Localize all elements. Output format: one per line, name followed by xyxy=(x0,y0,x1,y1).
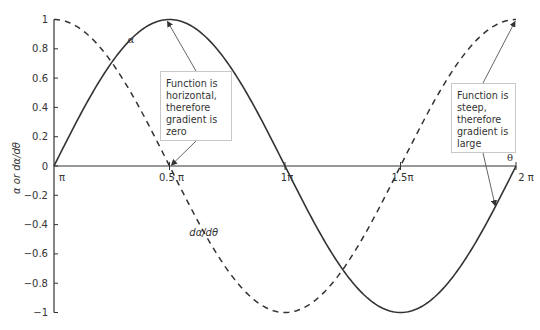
y-tick-label: 0.6 xyxy=(32,73,48,84)
y-tick-label: −1 xyxy=(33,307,48,318)
y-tick-label: −0.2 xyxy=(24,190,48,201)
y-tick-label: 0 xyxy=(42,161,48,172)
x-axis-title: θ xyxy=(507,152,513,163)
series-label: dα/dθ xyxy=(189,227,218,238)
y-tick-label: −0.4 xyxy=(24,219,48,230)
x-tick-label: π xyxy=(59,172,65,183)
y-tick-label: 0.4 xyxy=(32,102,48,113)
annotation-arrow xyxy=(172,141,197,165)
annotation-arrow xyxy=(168,22,197,72)
x-tick-label: 0.5 π xyxy=(159,172,184,183)
y-tick-label: 0.2 xyxy=(32,131,48,142)
x-tick-label: 1.5π xyxy=(392,172,414,183)
annotation-steep: Function is steep, therefore gradient is… xyxy=(451,83,516,153)
x-axis: π0.5 π1π1.5π2 πθ xyxy=(54,152,534,183)
y-axis: 10.80.60.40.20−0.2−0.4−0.6−0.8−1α or dα/… xyxy=(11,14,58,318)
y-tick-label: −0.6 xyxy=(24,248,48,259)
x-tick-label: 2 π xyxy=(518,172,534,183)
y-tick-label: 1 xyxy=(42,14,48,25)
series-label: α xyxy=(128,34,135,45)
y-tick-label: −0.8 xyxy=(24,278,48,289)
y-tick-label: 0.8 xyxy=(32,43,48,54)
annotation-horizontal: Function is horizontal, therefore gradie… xyxy=(160,71,232,141)
annotation-arrow xyxy=(483,153,495,206)
y-axis-title: α or dα/dθ xyxy=(11,142,22,194)
chart: 10.80.60.40.20−0.2−0.4−0.6−0.8−1α or dα/… xyxy=(0,0,540,330)
